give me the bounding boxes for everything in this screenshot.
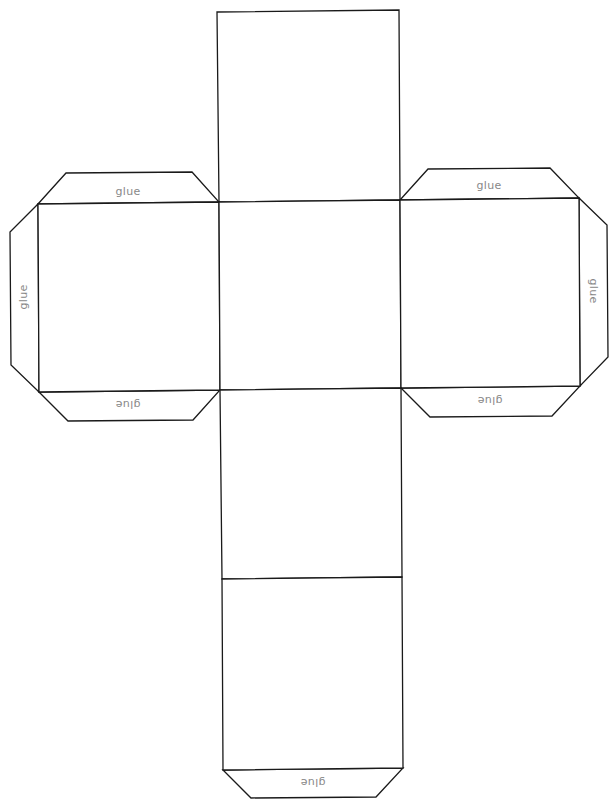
cube-net-diagram: glueglueglueglueglueglueglue — [0, 0, 614, 800]
right-face — [400, 198, 580, 388]
right-bottom-tab-label: glue — [478, 394, 503, 407]
center-face — [219, 200, 401, 390]
lower-face — [220, 388, 402, 579]
bottom-tab-label: glue — [301, 776, 326, 789]
bottom-face — [222, 577, 403, 770]
right-side-tab-label: glue — [587, 279, 600, 304]
top-face — [217, 10, 400, 202]
left-face — [38, 202, 220, 392]
right-top-tab-label: glue — [477, 179, 502, 192]
left-top-tab-label: glue — [116, 185, 141, 198]
left-side-tab-label: glue — [17, 285, 30, 310]
left-bottom-tab-label: glue — [116, 398, 141, 411]
